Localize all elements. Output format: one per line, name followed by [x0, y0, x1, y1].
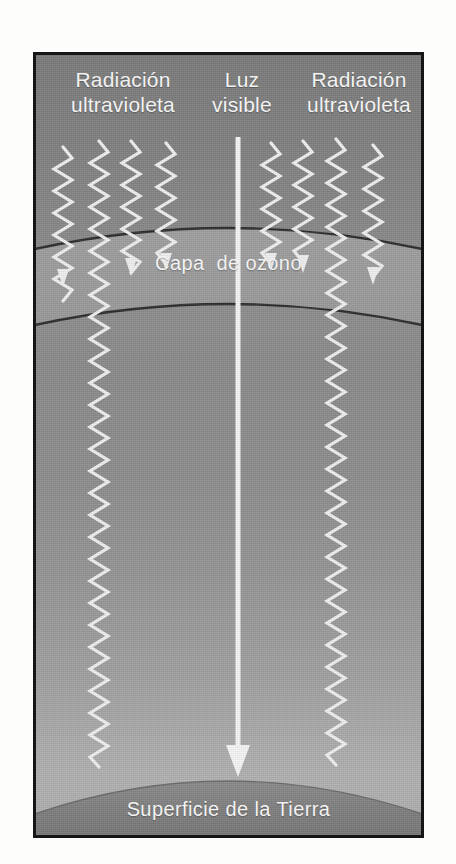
ozone-layer-band — [33, 228, 424, 327]
label-earth-surface: Superficie de la Tierra — [36, 797, 421, 822]
illustration-frame: Radiación ultravioleta Luz visible Radia… — [33, 52, 424, 838]
label-visible-light: Luz visible — [194, 67, 290, 117]
ozone-layer-diagram: Radiación ultravioleta Luz visible Radia… — [0, 0, 456, 864]
uv-wave-left-2 — [90, 141, 108, 767]
label-ozone-layer: Capa de ozono — [36, 251, 421, 276]
label-uv-right: Radiación ultravioleta — [284, 67, 424, 117]
label-uv-left: Radiación ultravioleta — [48, 67, 198, 117]
diagram-graphics — [36, 55, 421, 835]
ozone-band-fill — [33, 228, 424, 327]
visible-light-arrowhead — [226, 745, 250, 777]
